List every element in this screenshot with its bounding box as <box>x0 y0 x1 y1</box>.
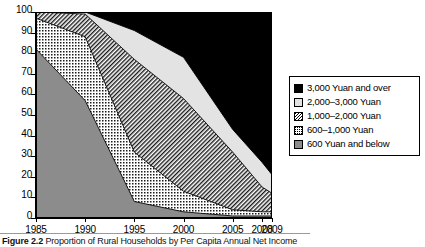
y-tick-label: 30 <box>21 149 32 159</box>
y-tick-label: 40 <box>21 129 32 139</box>
x-axis-line <box>35 218 273 219</box>
y-tick-label: 60 <box>21 87 32 97</box>
y-tick-label: 70 <box>21 67 32 77</box>
x-tick-mark <box>272 218 273 222</box>
y-tick-label: 100 <box>16 5 32 15</box>
y-tick-mark <box>31 53 36 54</box>
x-tick-mark <box>262 218 263 222</box>
y-tick-label: 50 <box>21 108 32 118</box>
legend-item[interactable]: 3,000 Yuan and over <box>294 81 415 95</box>
figure-caption: Figure 2.2 Proportion of Rural Household… <box>0 233 425 247</box>
y-tick-mark <box>31 94 36 95</box>
y-tick-label: 0 <box>27 211 32 221</box>
figure-container: 0102030405060708090100 19851990199520002… <box>0 0 425 247</box>
legend-label: 1,000–2,000 Yuan <box>307 111 381 121</box>
y-tick-mark <box>31 115 36 116</box>
x-tick-mark <box>184 218 185 222</box>
stacked-area-chart <box>36 12 272 218</box>
y-tick-mark <box>31 74 36 75</box>
y-tick-label: 20 <box>21 170 32 180</box>
legend-swatch-icon <box>294 140 303 149</box>
y-tick-mark <box>31 156 36 157</box>
legend-item[interactable]: 600 Yuan and below <box>294 137 415 151</box>
x-tick-mark <box>85 218 86 222</box>
legend-swatch-icon <box>294 98 303 107</box>
x-tick-mark <box>36 218 37 222</box>
legend-swatch-icon <box>294 84 303 93</box>
y-tick-mark <box>31 33 36 34</box>
x-tick-mark <box>134 218 135 222</box>
chart-plot-area <box>36 12 272 218</box>
legend-label: 600–1,000 Yuan <box>307 125 373 135</box>
y-tick-mark <box>31 136 36 137</box>
legend-label: 3,000 Yuan and over <box>307 83 391 93</box>
caption-divider <box>0 233 310 234</box>
legend-swatch-icon <box>294 126 303 135</box>
y-tick-mark <box>31 12 36 13</box>
legend-swatch-icon <box>294 112 303 121</box>
y-tick-label: 10 <box>21 190 32 200</box>
y-tick-label: 80 <box>21 46 32 56</box>
legend-item[interactable]: 600–1,000 Yuan <box>294 123 415 137</box>
legend-label: 600 Yuan and below <box>307 139 389 149</box>
y-tick-mark <box>31 197 36 198</box>
chart-legend: 3,000 Yuan and over2,000–3,000 Yuan1,000… <box>289 76 420 156</box>
y-tick-label: 90 <box>21 26 32 36</box>
legend-item[interactable]: 2,000–3,000 Yuan <box>294 95 415 109</box>
x-tick-mark <box>233 218 234 222</box>
caption-body: Proportion of Rural Households by Per Ca… <box>45 236 297 246</box>
legend-item[interactable]: 1,000–2,000 Yuan <box>294 109 415 123</box>
y-tick-mark <box>31 177 36 178</box>
series-layers <box>36 12 272 218</box>
legend-label: 2,000–3,000 Yuan <box>307 97 381 107</box>
caption-label: Figure 2.2 <box>2 236 43 246</box>
